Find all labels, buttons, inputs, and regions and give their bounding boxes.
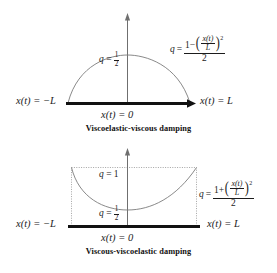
q-symbol-min-bottom: q: [99, 208, 104, 218]
label-peak-q-top: q = 1 2: [99, 52, 119, 68]
dotted-boundary-rect: [72, 168, 197, 227]
value-q-one: 1: [114, 169, 119, 179]
formula-numerator: 1− ( x(t) L )2: [184, 35, 225, 54]
q-symbol-top: q: [99, 54, 104, 64]
q-symbol-top-bottom: q: [99, 169, 104, 179]
baseline-axis-top: [66, 99, 196, 108]
formula-fraction-top: 1− ( x(t) L )2 2: [184, 35, 225, 64]
denominator: 2: [114, 61, 120, 69]
caption-viscous-viscoelastic: Viscous-viscoelastic damping: [0, 247, 277, 256]
formula-numerator-bottom: 1+ ( x(t) L )2: [213, 180, 254, 199]
exponent-two-bottom: 2: [249, 180, 252, 186]
label-left-endpoint-top: x(t) = −L: [16, 96, 56, 107]
equals-sign-q-one: =: [106, 169, 111, 179]
formula-viscoelastic-viscous: q = 1− ( x(t) L )2 2: [170, 35, 225, 64]
denominator: 2: [114, 215, 120, 223]
fraction-one-half-top: 1 2: [114, 52, 120, 68]
formula-viscous-viscoelastic: q = 1+ ( x(t) L )2 2: [199, 180, 254, 209]
label-top-q-bottom: q = 1: [99, 170, 119, 180]
fraction-one-half-bottom: 1 2: [114, 206, 120, 222]
formula-equals: =: [177, 44, 182, 54]
label-left-endpoint-bottom: x(t) = −L: [16, 219, 56, 230]
equals-sign-top: =: [106, 54, 111, 64]
formula-lhs-q: q: [170, 44, 175, 54]
caption-viscoelastic-viscous: Viscoelastic-viscous damping: [0, 124, 277, 133]
equals-sign-min-bottom: =: [106, 208, 111, 218]
ratio-denominator: L: [201, 44, 214, 52]
panel-viscous-viscoelastic: q = 1 q = 1 2 q = 1+ ( x(t) L )2: [0, 136, 277, 273]
valley-curve: [72, 168, 197, 211]
squared-ratio-group-top: ( x(t) L )2: [195, 35, 223, 52]
ratio-denominator: L: [230, 189, 243, 197]
formula-denominator-bottom: 2: [213, 199, 254, 209]
vertical-axis-top: [125, 13, 130, 103]
ratio-x-over-L-top: x(t) L: [201, 35, 214, 52]
top-panel-graphics: [0, 0, 277, 138]
formula-lhs-q-bottom: q: [199, 189, 204, 199]
label-min-q-bottom: q = 1 2: [99, 206, 119, 222]
label-right-endpoint-top: x(t) = L: [200, 96, 233, 107]
formula-equals-bottom: =: [206, 189, 211, 199]
formula-fraction-bottom: 1+ ( x(t) L )2 2: [213, 180, 254, 209]
panel-viscoelastic-viscous: q = 1 2 q = 1− ( x(t) L )2 2 x(t): [0, 0, 277, 138]
left-paren-icon: (: [196, 38, 200, 49]
ratio-x-over-L-bottom: x(t) L: [230, 180, 243, 197]
formula-denominator: 2: [184, 54, 225, 64]
vertical-axis-bottom: [125, 148, 130, 227]
label-right-endpoint-bottom: x(t) = L: [207, 219, 240, 230]
label-center-origin-top: x(t) = 0: [101, 110, 133, 121]
label-center-origin-bottom: x(t) = 0: [101, 233, 133, 244]
squared-ratio-group-bottom: ( x(t) L )2: [224, 180, 252, 197]
exponent-two: 2: [220, 35, 223, 41]
left-paren-icon: (: [225, 183, 229, 194]
